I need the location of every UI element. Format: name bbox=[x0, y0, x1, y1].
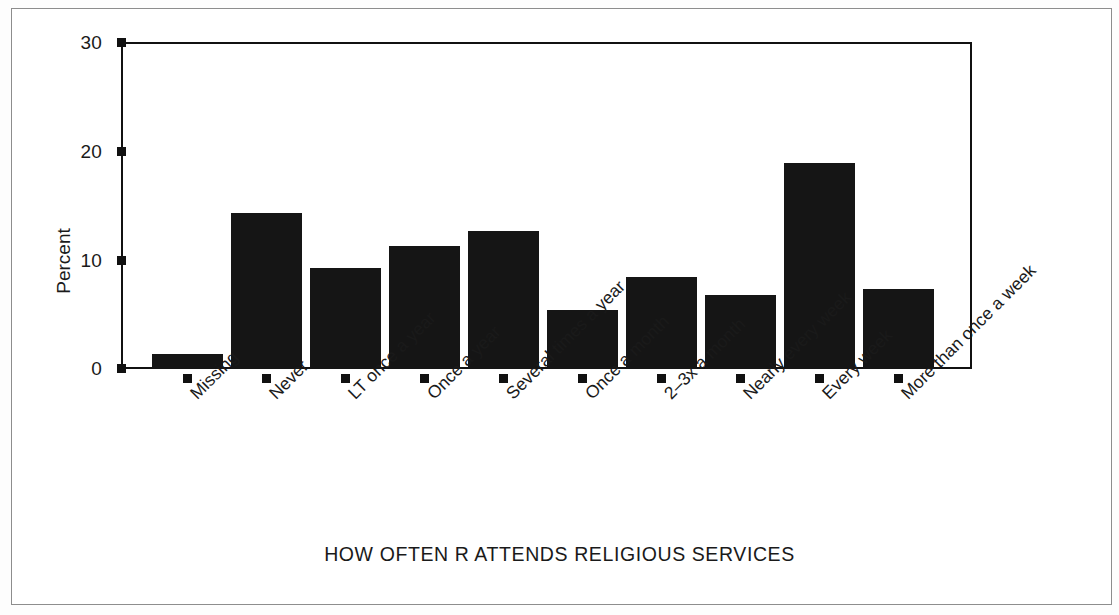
x-tick-mark-0 bbox=[183, 374, 192, 383]
chart-figure: Percent 30 20 10 0 Missing Never LT once… bbox=[0, 0, 1119, 615]
x-tick-mark-8 bbox=[815, 374, 824, 383]
x-tick-mark-9 bbox=[894, 374, 903, 383]
x-tick-mark-6 bbox=[657, 374, 666, 383]
x-tick-mark-2 bbox=[341, 374, 350, 383]
x-tick-mark-3 bbox=[420, 374, 429, 383]
y-tick-label-30: 30 bbox=[42, 32, 102, 54]
bar-never bbox=[231, 213, 302, 369]
bar-lt-once-a-year bbox=[310, 268, 381, 369]
x-tick-mark-7 bbox=[736, 374, 745, 383]
y-tick-label-10: 10 bbox=[42, 250, 102, 272]
y-tick-label-20: 20 bbox=[42, 141, 102, 163]
x-tick-mark-4 bbox=[499, 374, 508, 383]
x-axis-title: HOW OFTEN R ATTENDS RELIGIOUS SERVICES bbox=[0, 543, 1119, 566]
y-tick-label-0: 0 bbox=[42, 358, 102, 380]
x-tick-mark-5 bbox=[578, 374, 587, 383]
x-tick-mark-1 bbox=[262, 374, 271, 383]
